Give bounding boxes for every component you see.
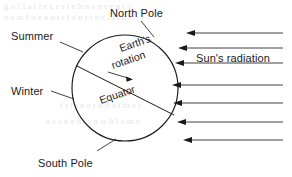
label-south-pole: South Pole xyxy=(38,157,93,169)
label-north-pole: North Pole xyxy=(110,7,163,19)
summer-leader-line xyxy=(60,42,83,52)
rotation-arrow-icon xyxy=(108,72,133,82)
south-pole-leader-line xyxy=(97,139,116,151)
radiation-arrow xyxy=(183,137,283,143)
radiation-arrow xyxy=(177,119,283,125)
diagram-canvas: g o f l a l l e c r s t e h n a n r e n … xyxy=(0,0,292,177)
suns-radiation-arrows xyxy=(172,30,283,143)
label-winter: Winter xyxy=(11,85,44,97)
winter-leader-line xyxy=(51,91,74,99)
label-suns-radiation: Sun's radiation xyxy=(196,52,270,64)
radiation-arrow xyxy=(173,100,283,106)
radiation-arrow xyxy=(178,45,283,51)
earth-radiation-diagram: g o f l a l l e c r s t e h n a n r e n … xyxy=(0,0,292,177)
label-summer: Summer xyxy=(11,30,53,42)
ghost-line-4: a s s n e n t r o w h l a m e xyxy=(46,116,140,126)
radiation-arrow xyxy=(172,82,283,88)
radiation-arrow xyxy=(186,30,283,36)
